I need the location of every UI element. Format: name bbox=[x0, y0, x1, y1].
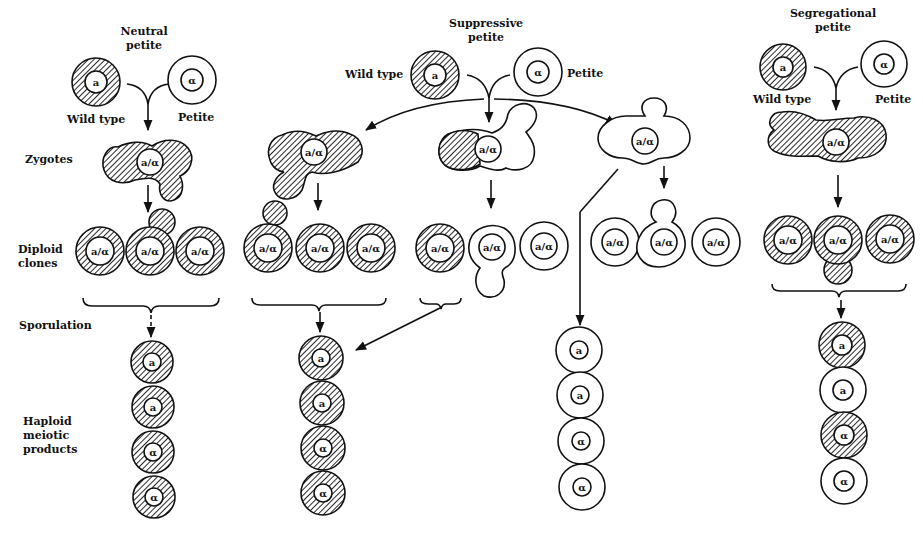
neutral-petite-label: Petite bbox=[178, 111, 214, 124]
suppressive-brace-left bbox=[252, 298, 386, 311]
suppressive-arrow-left bbox=[366, 99, 484, 130]
suppressive-haploids-right: a a α α bbox=[556, 327, 605, 510]
suppressive-long-arrow-diag bbox=[580, 169, 618, 212]
suppressive-arrow-middle-sporulation bbox=[356, 308, 440, 350]
row-labels: Zygotes Diploid clones Sporulation Haplo… bbox=[18, 153, 92, 456]
svg-text:a/α: a/α bbox=[707, 237, 725, 248]
svg-text:a/α: a/α bbox=[191, 246, 209, 257]
svg-text:α: α bbox=[578, 482, 586, 493]
segregational-brace bbox=[772, 284, 906, 297]
svg-text:a/α: a/α bbox=[827, 137, 845, 148]
row-label-sporulation: Sporulation bbox=[19, 319, 92, 332]
svg-text:a/α: a/α bbox=[779, 235, 797, 246]
svg-text:a/α: a/α bbox=[431, 243, 449, 254]
svg-text:α: α bbox=[150, 492, 158, 503]
svg-text:a: a bbox=[93, 77, 100, 88]
segregational-title-1: Segregational bbox=[790, 7, 876, 20]
svg-text:a/α: a/α bbox=[259, 243, 277, 254]
svg-text:α: α bbox=[188, 75, 196, 86]
neutral-title-1: Neutral bbox=[120, 25, 167, 38]
suppressive-zygote-center: a/α bbox=[439, 104, 537, 171]
segregational-diploid-clones: a/α a/α a/α bbox=[764, 215, 914, 284]
svg-text:a: a bbox=[432, 70, 439, 81]
svg-text:α: α bbox=[319, 443, 327, 454]
neutral-petite-cell: α bbox=[168, 56, 216, 104]
svg-text:a: a bbox=[576, 345, 583, 356]
row-label-zygotes: Zygotes bbox=[25, 153, 73, 166]
segregational-wild-type-cell: a bbox=[760, 44, 806, 90]
suppressive-diploids-right: a/α a/α a/α bbox=[591, 200, 740, 267]
svg-text:α: α bbox=[319, 488, 327, 499]
neutral-wild-type-cell: a bbox=[72, 58, 120, 106]
svg-text:a: a bbox=[839, 340, 846, 351]
svg-text:a/α: a/α bbox=[311, 243, 329, 254]
svg-text:α: α bbox=[534, 67, 542, 78]
svg-text:α: α bbox=[880, 59, 888, 70]
svg-text:a/α: a/α bbox=[655, 237, 673, 248]
neutral-brace bbox=[83, 298, 219, 313]
segregational-title-2: petite bbox=[815, 21, 851, 34]
suppressive-diploids-left: a/α a/α a/α bbox=[244, 201, 395, 272]
suppressive-zygote-left: a/α bbox=[269, 131, 363, 199]
svg-text:a: a bbox=[149, 357, 156, 368]
svg-text:a: a bbox=[150, 402, 157, 413]
svg-text:a/α: a/α bbox=[305, 147, 323, 158]
neutral-wild-type-label: Wild type bbox=[66, 113, 125, 126]
suppressive-title-1: Suppressive bbox=[449, 17, 523, 30]
svg-text:a: a bbox=[318, 353, 325, 364]
svg-text:α: α bbox=[840, 430, 848, 441]
row-label-haploid: Haploid bbox=[23, 415, 72, 428]
suppressive-haploids-left: a a α α bbox=[299, 336, 345, 515]
svg-text:a: a bbox=[840, 385, 847, 396]
petite-mutant-diagram: Zygotes Diploid clones Sporulation Haplo… bbox=[0, 0, 923, 541]
svg-text:a/α: a/α bbox=[483, 242, 501, 253]
svg-text:a/α: a/α bbox=[362, 243, 380, 254]
row-label-clones: clones bbox=[18, 257, 57, 270]
svg-text:α: α bbox=[149, 447, 157, 458]
neutral-diploid-clones: a/α a/α a/α bbox=[76, 209, 224, 275]
suppressive-diploids-middle: a/α a/α a/α bbox=[416, 222, 568, 297]
svg-text:a: a bbox=[577, 390, 584, 401]
svg-text:a/α: a/α bbox=[479, 144, 497, 155]
segregational-petite-cell: α bbox=[861, 41, 907, 87]
svg-text:a/α: a/α bbox=[535, 241, 553, 252]
svg-text:a/α: a/α bbox=[91, 246, 109, 257]
svg-text:a/α: a/α bbox=[881, 234, 899, 245]
panel-neutral-petite: Neutral petite a α Wild type Petite a/α bbox=[66, 25, 224, 518]
segregational-zygote: a/α bbox=[768, 111, 886, 161]
svg-text:a/α: a/α bbox=[606, 237, 624, 248]
svg-text:α: α bbox=[840, 476, 848, 487]
suppressive-title-2: petite bbox=[468, 31, 504, 44]
svg-text:a: a bbox=[319, 398, 326, 409]
panel-suppressive-petite: Suppressive petite Wild type a α Petite … bbox=[244, 17, 740, 515]
row-label-products: products bbox=[23, 443, 77, 456]
suppressive-brace-middle bbox=[420, 298, 461, 309]
neutral-title-2: petite bbox=[126, 39, 162, 52]
suppressive-wild-type-cell: a bbox=[411, 51, 459, 99]
suppressive-petite-label: Petite bbox=[567, 67, 603, 80]
svg-text:a/α: a/α bbox=[141, 246, 159, 257]
svg-text:a/α: a/α bbox=[829, 235, 847, 246]
neutral-haploid-products: a a α α bbox=[131, 341, 175, 518]
segregational-haploid-products: a a α α bbox=[819, 322, 867, 504]
panel-segregational-petite: Segregational petite a α Wild type Petit… bbox=[752, 7, 914, 504]
row-label-diploid: Diploid bbox=[18, 243, 63, 256]
svg-text:α: α bbox=[577, 436, 585, 447]
suppressive-mating-join bbox=[467, 75, 510, 98]
svg-text:a/α: a/α bbox=[636, 136, 654, 147]
suppressive-wild-type-label: Wild type bbox=[344, 68, 403, 81]
suppressive-zygote-right: a/α bbox=[598, 98, 690, 164]
suppressive-petite-cell: α bbox=[514, 48, 562, 96]
svg-text:a/α: a/α bbox=[141, 157, 159, 168]
svg-text:a: a bbox=[780, 62, 787, 73]
row-label-meiotic: meiotic bbox=[23, 429, 69, 442]
segregational-wild-type-label: Wild type bbox=[752, 93, 811, 106]
segregational-petite-label: Petite bbox=[875, 93, 911, 106]
